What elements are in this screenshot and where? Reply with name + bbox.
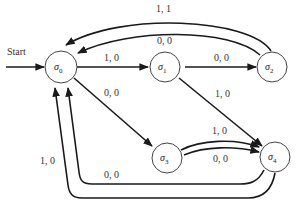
state-s1-subscript: 1: [163, 67, 167, 75]
edge-label-s1-s4: 1, 0: [215, 88, 230, 99]
edge-label-s3-s4-lower: 0, 0: [213, 153, 228, 164]
edge-label-s1-s2: 0, 0: [214, 52, 229, 63]
edge-s3-s4-upper: [181, 141, 259, 150]
state-diagram: Start 1, 0 0, 0 1, 1 0, 0 0, 0 1, 0 1, 0…: [0, 0, 301, 204]
state-s4-subscript: 4: [273, 157, 277, 165]
state-s0: σ0: [45, 51, 77, 83]
edge-label-s0-s3: 0, 0: [104, 87, 119, 98]
state-s3: σ3: [152, 143, 182, 173]
state-s2: σ2: [257, 52, 287, 82]
edge-label-s4-s0-inner: 0, 0: [104, 169, 119, 180]
state-s4: σ4: [260, 142, 290, 172]
edge-label-s4-s0-outer: 1, 0: [40, 155, 55, 166]
edge-label-s2-s0-inner: 0, 0: [157, 35, 172, 46]
state-s3-subscript: 3: [165, 158, 169, 166]
state-s1: σ1: [150, 52, 180, 82]
state-s2-subscript: 2: [270, 67, 274, 75]
edge-label-s0-s1: 1, 0: [104, 52, 119, 63]
edge-label-s3-s4-upper: 1, 0: [212, 125, 227, 136]
start-label: Start: [7, 46, 26, 57]
state-s0-subscript: 0: [59, 67, 63, 75]
edge-label-s2-s0-outer: 1, 1: [156, 3, 171, 14]
